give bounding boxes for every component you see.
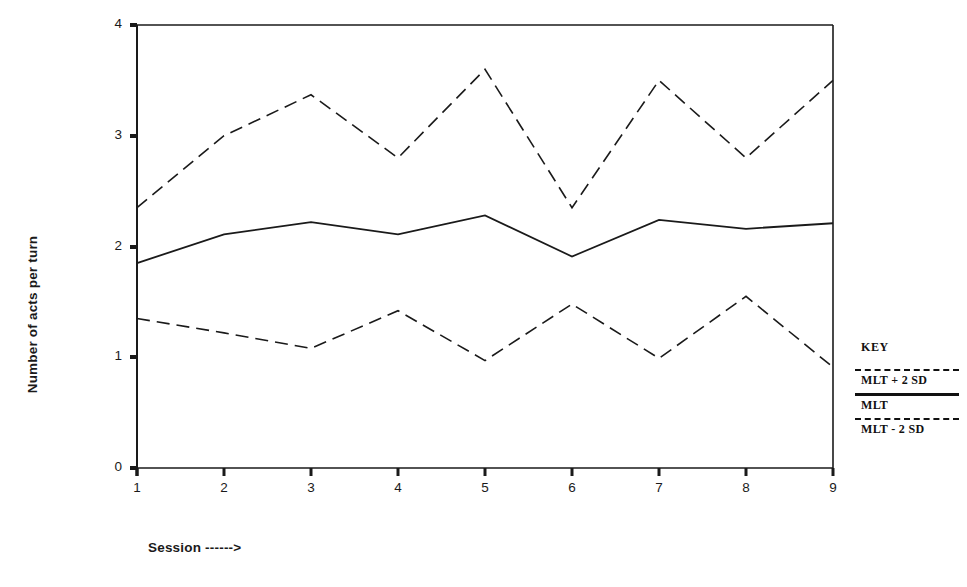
legend-label-mlt-minus-2sd: MLT - 2 SD bbox=[855, 420, 959, 440]
line-chart-plot bbox=[0, 0, 967, 587]
legend-title: KEY bbox=[855, 340, 959, 355]
x-tick-label-1: 1 bbox=[127, 480, 147, 495]
x-tick-marks bbox=[137, 468, 833, 476]
chart-legend: KEY MLT + 2 SD MLT MLT - 2 SD bbox=[855, 340, 959, 442]
x-axis-title: Session ------> bbox=[148, 540, 241, 555]
x-tick-label-7: 7 bbox=[649, 480, 669, 495]
y-axis-label: Number of acts per turn bbox=[25, 215, 40, 415]
y-tick-label-1: 1 bbox=[100, 348, 122, 363]
y-tick-label-3: 3 bbox=[100, 127, 122, 142]
y-tick-label-2: 2 bbox=[100, 238, 122, 253]
legend-label-mlt-plus-2sd: MLT + 2 SD bbox=[855, 371, 959, 391]
x-tick-label-9: 9 bbox=[823, 480, 843, 495]
legend-label-mlt: MLT bbox=[855, 396, 959, 416]
chart-page: 4 3 2 1 0 1 2 3 4 5 6 7 8 9 Number of ac… bbox=[0, 0, 967, 587]
series-line-mlt bbox=[137, 215, 833, 263]
y-tick-label-0: 0 bbox=[100, 459, 122, 474]
plot-frame bbox=[137, 25, 833, 468]
legend-entry-mlt: MLT bbox=[855, 393, 959, 416]
x-tick-label-8: 8 bbox=[736, 480, 756, 495]
series-line-mlt-2-sd bbox=[137, 69, 833, 207]
x-tick-label-2: 2 bbox=[214, 480, 234, 495]
legend-entry-mlt-minus-2sd: MLT - 2 SD bbox=[855, 418, 959, 440]
series-line-mlt-2-sd bbox=[137, 296, 833, 367]
x-tick-label-4: 4 bbox=[388, 480, 408, 495]
legend-entry-mlt-plus-2sd: MLT + 2 SD bbox=[855, 369, 959, 391]
x-tick-label-3: 3 bbox=[301, 480, 321, 495]
data-series-group bbox=[137, 69, 833, 367]
y-tick-label-4: 4 bbox=[100, 16, 122, 31]
y-tick-marks bbox=[130, 25, 137, 468]
x-tick-label-5: 5 bbox=[475, 480, 495, 495]
x-tick-label-6: 6 bbox=[562, 480, 582, 495]
